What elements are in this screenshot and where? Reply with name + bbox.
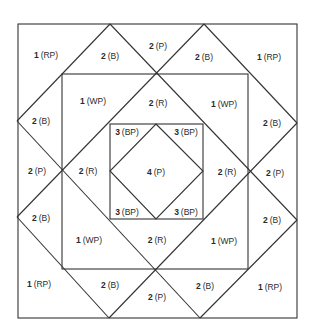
patch-label: 1(WP) xyxy=(211,100,237,109)
patch-label: 1(WP) xyxy=(80,97,106,106)
patch-color-code: (R) xyxy=(155,98,167,108)
patch-number: 1 xyxy=(76,235,81,245)
patch-color-code: (P) xyxy=(35,166,46,176)
patch-color-code: (P) xyxy=(156,41,167,51)
patch-number: 3 xyxy=(174,127,179,137)
patch-color-code: (B) xyxy=(108,51,119,61)
patch-color-code: (WP) xyxy=(87,96,106,106)
patch-color-code: (B) xyxy=(108,280,119,290)
patch-color-code: (B) xyxy=(203,281,214,291)
patch-label: 2(R) xyxy=(79,167,98,176)
patch-label: 3(BP) xyxy=(115,128,139,137)
patch-label: 2(B) xyxy=(32,117,50,126)
patch-label: 2(B) xyxy=(195,53,213,62)
patch-number: 2 xyxy=(28,166,33,176)
patch-number: 1 xyxy=(258,282,263,292)
patch-number: 3 xyxy=(115,207,120,217)
patch-number: 2 xyxy=(101,280,106,290)
patch-number: 2 xyxy=(148,292,153,302)
patch-number: 1 xyxy=(27,279,32,289)
patch-number: 2 xyxy=(195,52,200,62)
patch-color-code: (R) xyxy=(85,166,97,176)
patch-number: 3 xyxy=(115,127,120,137)
patch-label: 1(RP) xyxy=(27,280,51,289)
patch-number: 2 xyxy=(148,235,153,245)
patch-number: 2 xyxy=(266,168,271,178)
patch-number: 1 xyxy=(257,52,262,62)
patch-color-code: (RP) xyxy=(265,282,282,292)
patch-color-code: (B) xyxy=(39,213,50,223)
patch-color-code: (B) xyxy=(270,118,281,128)
patch-label: 2(B) xyxy=(263,216,281,225)
patch-label: 2(B) xyxy=(101,281,119,290)
patch-color-code: (R) xyxy=(154,235,166,245)
patch-label: 2(P) xyxy=(148,293,166,302)
patch-color-code: (BP) xyxy=(181,207,198,217)
diagonal-line xyxy=(17,24,110,121)
patch-number: 2 xyxy=(196,281,201,291)
patch-color-code: (BP) xyxy=(122,207,139,217)
patch-color-code: (BP) xyxy=(181,127,198,137)
patch-color-code: (WP) xyxy=(218,99,237,109)
patch-label: 1(WP) xyxy=(211,237,237,246)
patch-number: 1 xyxy=(211,99,216,109)
patch-number: 3 xyxy=(174,207,179,217)
patch-label: 1(WP) xyxy=(76,236,102,245)
patch-number: 2 xyxy=(32,213,37,223)
patch-number: 2 xyxy=(32,116,37,126)
patch-color-code: (RP) xyxy=(264,52,281,62)
patch-label: 1(RP) xyxy=(258,283,282,292)
patch-number: 2 xyxy=(101,51,106,61)
patch-label: 2(P) xyxy=(149,42,167,51)
patch-number: 1 xyxy=(211,236,216,246)
patch-number: 2 xyxy=(149,98,154,108)
patch-label: 2(P) xyxy=(266,169,284,178)
patch-label: 3(BP) xyxy=(174,128,198,137)
patch-number: 4 xyxy=(147,167,152,177)
patch-label: 2(R) xyxy=(148,236,167,245)
patch-label: 2(B) xyxy=(32,214,50,223)
patch-label: 2(B) xyxy=(196,282,214,291)
patch-color-code: (B) xyxy=(270,215,281,225)
patch-number: 1 xyxy=(34,50,39,60)
patch-color-code: (BP) xyxy=(122,127,139,137)
patch-number: 2 xyxy=(149,41,154,51)
patch-color-code: (R) xyxy=(224,167,236,177)
patch-color-code: (WP) xyxy=(218,236,237,246)
patch-number: 2 xyxy=(218,167,223,177)
patch-number: 2 xyxy=(79,166,84,176)
patch-number: 2 xyxy=(263,118,268,128)
patch-color-code: (RP) xyxy=(34,279,51,289)
patch-color-code: (P) xyxy=(273,168,284,178)
patch-label: 2(R) xyxy=(149,99,168,108)
patch-label: 2(B) xyxy=(101,52,119,61)
patch-label: 4(P) xyxy=(147,168,165,177)
patch-color-code: (B) xyxy=(202,52,213,62)
patch-color-code: (WP) xyxy=(83,235,102,245)
patch-label: 3(BP) xyxy=(115,208,139,217)
patch-label: 1(RP) xyxy=(257,53,281,62)
patch-number: 1 xyxy=(80,96,85,106)
patch-color-code: (B) xyxy=(39,116,50,126)
patch-color-code: (P) xyxy=(154,167,165,177)
patch-label: 2(P) xyxy=(28,167,46,176)
patch-label: 3(BP) xyxy=(174,208,198,217)
patch-color-code: (RP) xyxy=(41,50,58,60)
patch-label: 2(B) xyxy=(263,119,281,128)
diagonal-line xyxy=(17,217,109,318)
patch-color-code: (P) xyxy=(155,292,166,302)
patch-number: 2 xyxy=(263,215,268,225)
patch-label: 1(RP) xyxy=(34,51,58,60)
patch-label: 2(R) xyxy=(218,168,237,177)
